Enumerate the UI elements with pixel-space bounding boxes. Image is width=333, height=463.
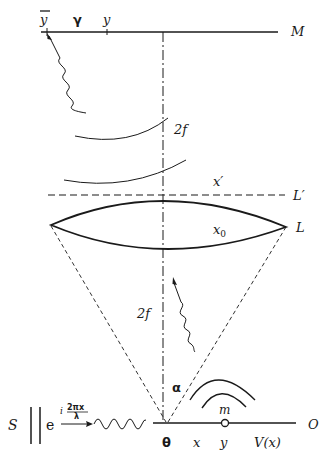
label-e: e	[46, 417, 54, 433]
label-alpha: α	[172, 380, 181, 395]
label-M: M	[290, 24, 305, 39]
label-V-x: V(x)	[254, 435, 281, 450]
arrow-top-head-icon	[47, 33, 52, 40]
label-O: O	[308, 417, 319, 432]
label-x-prime: x′	[213, 174, 223, 189]
wavefront-arc-2	[64, 160, 186, 183]
label-L: L	[295, 220, 305, 235]
incident-wave-icon	[94, 419, 146, 429]
arrow-middle-head-icon	[173, 277, 178, 285]
lens-L	[51, 201, 286, 249]
label-theta: θ	[162, 435, 171, 450]
scatter-arc-outer	[190, 380, 255, 400]
label-x-bottom: x	[193, 435, 201, 450]
particle-m	[222, 420, 229, 427]
wavy-photon-top-icon	[59, 58, 86, 113]
wavefront-arc-1	[75, 118, 168, 139]
label-y-bottom: y	[219, 435, 228, 450]
label-2f-top: 2f	[173, 122, 189, 137]
label-L-prime: L′	[292, 188, 305, 203]
label-exp-num: 2πx	[67, 403, 85, 412]
label-exp-i: i	[60, 406, 63, 416]
label-S: S	[8, 417, 18, 433]
label-y-top: y	[102, 12, 111, 27]
cone-right	[168, 227, 286, 422]
optics-diagram: y γ y M 2f x′ L′ x0 L 2f α m O θ x y V(x…	[0, 0, 333, 463]
label-y-bar: y	[39, 12, 48, 27]
cone-left	[51, 226, 166, 422]
arrow-middle-shaft	[174, 283, 181, 302]
label-2f-bottom: 2f	[136, 306, 152, 321]
label-m: m	[219, 403, 230, 417]
label-exp-den: λ	[74, 412, 79, 421]
wavy-photon-middle-icon	[180, 302, 195, 352]
incident-arrow-head-icon	[86, 421, 93, 427]
label-gamma: γ	[73, 12, 82, 27]
label-x0: x0	[213, 222, 226, 239]
